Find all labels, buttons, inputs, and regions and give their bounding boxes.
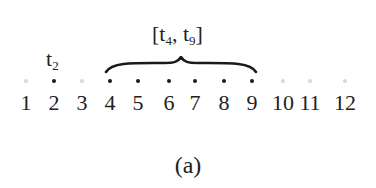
timeline-tick-label: 10 <box>272 92 294 114</box>
timeline-tick-label: 2 <box>49 92 60 114</box>
timeline-tick-label: 11 <box>299 92 320 114</box>
timeline-dot <box>250 79 254 83</box>
timeline-dot <box>108 79 112 83</box>
timeline-dot <box>167 79 171 83</box>
point-label-sub: 2 <box>52 58 59 73</box>
timeline-dot <box>193 79 197 83</box>
timeline-dot <box>80 79 84 83</box>
close-bracket: ] <box>196 21 203 46</box>
timeline-tick-label: 9 <box>247 92 258 114</box>
timeline-dot <box>222 79 226 83</box>
timeline-tick-label: 8 <box>219 92 230 114</box>
timeline-dot <box>136 79 140 83</box>
timeline-tick-label: 5 <box>133 92 144 114</box>
timeline-tick-label: 4 <box>105 92 116 114</box>
timeline-dot <box>308 79 312 83</box>
timeline-dot <box>24 79 28 83</box>
timeline-tick-label: 7 <box>190 92 201 114</box>
timeline-tick-label: 3 <box>77 92 88 114</box>
timeline-dot <box>281 79 285 83</box>
interval-label: [t4, t9] <box>152 23 203 47</box>
point-label-t2: t2 <box>46 48 59 72</box>
separator: , <box>172 21 183 46</box>
timeline-tick-label: 12 <box>334 92 356 114</box>
timeline-dot <box>343 79 347 83</box>
timeline-tick-label: 6 <box>164 92 175 114</box>
timeline-dot <box>52 79 56 83</box>
curly-brace-icon <box>104 56 258 74</box>
figure-caption: (a) <box>175 153 202 177</box>
timeline-tick-label: 1 <box>21 92 32 114</box>
